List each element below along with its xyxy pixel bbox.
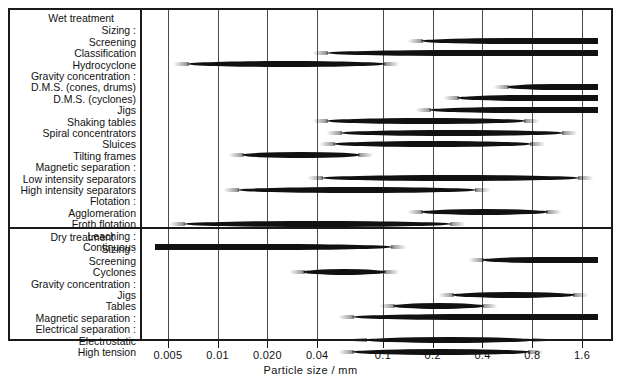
axis-tick	[317, 341, 318, 348]
range-bar-taper-left	[223, 188, 239, 192]
range-bar	[452, 292, 575, 298]
gridline	[433, 229, 434, 339]
range-bar-taper-right	[573, 293, 589, 297]
range-bar	[421, 209, 548, 215]
range-bar-taper-right	[578, 176, 594, 180]
range-bar	[352, 349, 530, 355]
row-label: Froth flotation	[0, 219, 136, 230]
range-bar-taper-left	[169, 222, 185, 226]
range-bar	[457, 95, 598, 101]
range-bar-taper-left	[407, 210, 423, 214]
range-bar-taper-left	[407, 39, 423, 43]
range-bar-taper-right	[391, 245, 407, 249]
range-bar-taper-right	[546, 210, 562, 214]
range-bar-taper-left	[319, 142, 335, 146]
range-bar-taper-left	[289, 270, 305, 274]
range-bar	[365, 337, 534, 343]
range-bar-taper-left	[443, 96, 459, 100]
range-bar-taper-right	[530, 142, 546, 146]
range-bar-taper-left	[379, 304, 395, 308]
section-title: Dry treatment	[0, 232, 136, 243]
row-label: Hydrocyclone	[0, 60, 136, 71]
range-bar-taper-left	[312, 119, 328, 123]
row-label: Classification	[0, 48, 136, 59]
chart-frame-top	[8, 8, 613, 10]
row-label: Spiral concentrators	[0, 128, 136, 139]
range-bar-taper-left	[173, 62, 189, 66]
range-bar	[326, 118, 526, 124]
row-label: Jigs	[0, 290, 136, 301]
axis-tick-label: 0.005	[153, 349, 182, 361]
axis-tick-label: 0.04	[306, 349, 329, 361]
range-bar-taper-left	[438, 293, 454, 297]
range-bar	[303, 269, 386, 275]
row-label: Tilting frames	[0, 151, 136, 162]
range-bar	[155, 244, 393, 250]
range-bar	[352, 314, 598, 320]
gridline	[532, 229, 533, 339]
range-bar-taper-left	[415, 108, 431, 112]
row-label: Cyclones	[0, 267, 136, 278]
x-axis-label: Particle size / mm	[0, 364, 621, 376]
row-label: High intensity separators	[0, 185, 136, 196]
range-bar-taper-left	[338, 315, 354, 319]
range-bar	[237, 187, 477, 193]
range-bar-taper-right	[524, 119, 540, 123]
gridline	[267, 10, 268, 227]
axis-tick-label: 0.01	[206, 349, 229, 361]
range-bar-taper-left	[351, 338, 367, 342]
group-heading: Flotation :	[0, 196, 136, 207]
gridline	[582, 229, 583, 339]
row-label: Sluices	[0, 139, 136, 150]
range-bar-taper-left	[312, 51, 328, 55]
range-bar-taper-left	[228, 153, 244, 157]
group-heading: Magnetic separation :	[0, 313, 136, 324]
range-bar-taper-right	[450, 222, 466, 226]
range-bar	[333, 141, 532, 147]
range-bar-taper-right	[384, 62, 400, 66]
row-label: Screening	[0, 37, 136, 48]
group-heading: Sizing :	[0, 25, 136, 36]
range-bar-taper-left	[326, 131, 342, 135]
range-bar-taper-left	[307, 176, 323, 180]
particle-size-range-chart: 0.0050.010.0200.040.10.20.40.81.6 Wet tr…	[0, 0, 621, 379]
group-heading: Magnetic separation :	[0, 162, 136, 173]
axis-tick	[218, 341, 219, 348]
axis-tick	[168, 341, 169, 348]
range-bar	[421, 38, 598, 44]
label-plot-divider	[140, 8, 142, 341]
range-bar	[429, 107, 598, 113]
range-bar	[183, 221, 451, 227]
row-label: Shaking tables	[0, 117, 136, 128]
row-label: Screening	[0, 256, 136, 267]
range-bar-taper-right	[562, 131, 578, 135]
range-bar	[326, 50, 598, 56]
chart-frame-right	[611, 8, 613, 341]
row-label: D.M.S. (cones, drums)	[0, 82, 136, 93]
range-bar-taper-right	[358, 153, 374, 157]
axis-tick	[582, 341, 583, 348]
range-bar-taper-right	[384, 270, 400, 274]
group-heading: Electrical separation :	[0, 324, 136, 335]
range-bar-taper-right	[475, 188, 491, 192]
range-bar-taper-right	[532, 338, 548, 342]
range-bar	[242, 152, 361, 158]
range-bar	[482, 257, 598, 263]
range-bar	[507, 84, 598, 90]
gridline	[482, 229, 483, 339]
range-bar	[340, 130, 564, 136]
row-label: Agglomeration	[0, 208, 136, 219]
section-title: Wet treatment	[0, 13, 136, 24]
axis-tick-label: 0.020	[253, 349, 282, 361]
gridline	[218, 10, 219, 227]
axis-tick	[532, 341, 533, 348]
row-label: High tension	[0, 347, 136, 358]
range-bar-taper-right	[528, 350, 544, 354]
range-bar	[321, 175, 580, 181]
row-label: D.M.S. (cyclones)	[0, 94, 136, 105]
range-bar-taper-left	[338, 350, 354, 354]
range-bar-taper-left	[493, 85, 509, 89]
row-label: Low intensity separators	[0, 174, 136, 185]
group-heading: Gravity concentration :	[0, 279, 136, 290]
gridline	[168, 10, 169, 227]
